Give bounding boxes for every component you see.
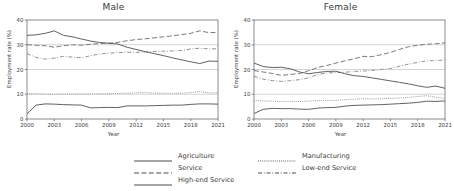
series-line-low-end-service bbox=[27, 48, 218, 59]
y-axis-tick-label: 30 bbox=[244, 42, 251, 48]
series-line-manufacturing bbox=[254, 96, 445, 102]
y-axis-label-male: Employment rate (%) bbox=[6, 21, 12, 97]
x-axis-tick-label: 2012 bbox=[356, 122, 370, 128]
x-axis-tick-label: 2021 bbox=[211, 122, 225, 128]
x-axis-tick-label: 2006 bbox=[75, 122, 89, 128]
legend-item: Manufacturing bbox=[257, 150, 356, 162]
legend-item: Low-end Service bbox=[257, 162, 356, 174]
legend-label: Service bbox=[178, 163, 202, 173]
series-line-service bbox=[254, 43, 445, 76]
legend-label: High-end Service bbox=[178, 175, 234, 185]
y-axis-tick-label: 0 bbox=[20, 116, 24, 122]
x-axis-label-female: Year bbox=[227, 131, 454, 137]
legend-key-solid bbox=[133, 175, 173, 185]
series-line-agriculture bbox=[254, 101, 445, 114]
x-axis-tick-label: 2003 bbox=[47, 122, 61, 128]
series-line-agriculture bbox=[27, 104, 218, 114]
x-axis-tick-label: 2000 bbox=[20, 122, 34, 128]
x-axis-tick-label: 2012 bbox=[129, 122, 143, 128]
x-axis-tick-label: 2015 bbox=[157, 122, 171, 128]
x-axis-tick-label: 2018 bbox=[184, 122, 198, 128]
legend-item: High-end Service bbox=[133, 174, 234, 186]
x-axis-tick-label: 2021 bbox=[438, 122, 452, 128]
y-axis-tick-label: 20 bbox=[244, 67, 251, 73]
series-line-high-end-service bbox=[27, 31, 218, 64]
x-axis-label-male: Year bbox=[0, 131, 227, 137]
x-axis-tick-label: 2000 bbox=[247, 122, 261, 128]
legend: AgricultureServiceHigh-end Service Manuf… bbox=[0, 150, 454, 191]
y-axis-tick-label: 0 bbox=[247, 116, 251, 122]
plot-area-female: 0102030402000200320062009201220152018202… bbox=[227, 0, 454, 148]
legend-column-left: AgricultureServiceHigh-end Service bbox=[133, 150, 234, 186]
legend-item: Service bbox=[133, 162, 234, 174]
figure-root: Male 01020304020002003200620092012201520… bbox=[0, 0, 454, 191]
y-axis-label-female: Employment rate (%) bbox=[233, 21, 239, 97]
legend-label: Agriculture bbox=[178, 151, 214, 161]
x-axis-tick-label: 2003 bbox=[274, 122, 288, 128]
x-axis-tick-label: 2006 bbox=[302, 122, 316, 128]
y-axis-tick-label: 20 bbox=[17, 67, 24, 73]
x-axis-tick-label: 2009 bbox=[329, 122, 343, 128]
legend-column-right: ManufacturingLow-end Service bbox=[257, 150, 356, 174]
y-axis-tick-label: 30 bbox=[17, 42, 24, 48]
series-line-manufacturing bbox=[27, 92, 218, 95]
y-axis-tick-label: 10 bbox=[17, 91, 24, 97]
legend-key-solid bbox=[133, 151, 173, 161]
x-axis-tick-label: 2015 bbox=[384, 122, 398, 128]
panel-female: Female 010203040200020032006200920122015… bbox=[227, 0, 454, 148]
plot-area-male: 0102030402000200320062009201220152018202… bbox=[0, 0, 227, 148]
x-axis-tick-label: 2009 bbox=[102, 122, 116, 128]
legend-key-dashed bbox=[133, 163, 173, 173]
legend-key-dotted bbox=[257, 151, 297, 161]
legend-key-dashdot bbox=[257, 163, 297, 173]
legend-label: Manufacturing bbox=[302, 151, 350, 161]
y-axis-tick-label: 10 bbox=[244, 91, 251, 97]
y-axis-tick-label: 40 bbox=[244, 17, 251, 23]
legend-label: Low-end Service bbox=[302, 163, 356, 173]
series-line-low-end-service bbox=[254, 60, 445, 82]
legend-item: Agriculture bbox=[133, 150, 234, 162]
y-axis-tick-label: 40 bbox=[17, 17, 24, 23]
panel-male: Male 01020304020002003200620092012201520… bbox=[0, 0, 227, 148]
x-axis-tick-label: 2018 bbox=[411, 122, 425, 128]
series-line-high-end-service bbox=[254, 63, 445, 88]
